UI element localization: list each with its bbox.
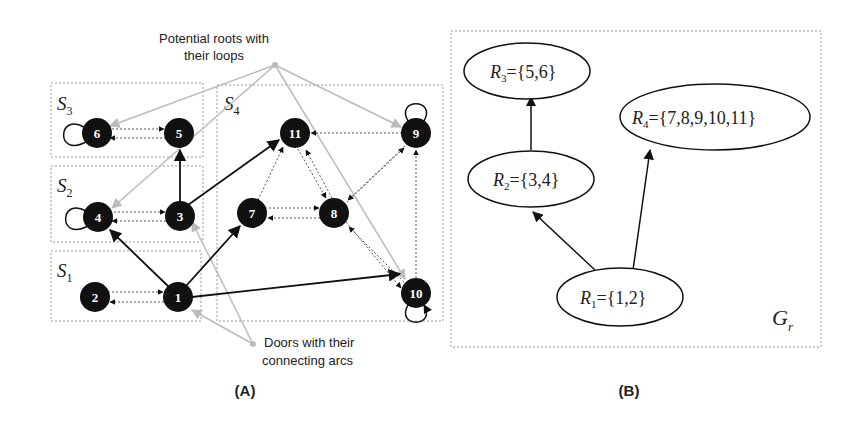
- svg-text:7: 7: [249, 206, 256, 221]
- node-2: 2: [80, 282, 110, 312]
- roots-hub-dot: [272, 62, 278, 68]
- subset-label-s2: S2: [57, 175, 73, 200]
- node-8: 8: [319, 198, 349, 228]
- svg-text:3: 3: [177, 209, 184, 224]
- doors-annotation-line1: Doors with their: [264, 335, 355, 350]
- region-nodes: R3={5,6} R4={7,8,9,10,11} R2={3,4} R1={1…: [464, 43, 810, 326]
- svg-text:R3={5,6}: R3={5,6}: [489, 62, 556, 84]
- svg-text:R4={7,8,9,10,11}: R4={7,8,9,10,11}: [631, 108, 756, 130]
- node-5: 5: [164, 118, 194, 148]
- svg-text:11: 11: [289, 126, 301, 141]
- node-11: 11: [280, 118, 310, 148]
- region-r1: R1={1,2}: [557, 268, 683, 326]
- node-7: 7: [237, 198, 267, 228]
- subset-label-s1: S1: [57, 260, 73, 285]
- svg-text:6: 6: [94, 126, 101, 141]
- figure-canvas: S3 S2 S1 S4: [0, 0, 859, 425]
- svg-text:9: 9: [413, 126, 420, 141]
- node-1: 1: [163, 282, 193, 312]
- doors-annotation-line2: connecting arcs: [262, 353, 354, 368]
- region-r4: R4={7,8,9,10,11}: [620, 84, 810, 150]
- roots-annotation-line2: their loops: [184, 48, 244, 63]
- root-annotation-arrows: [110, 65, 405, 279]
- graph-nodes: 6 5 4 3 2 1 11 9 7 8 10: [80, 118, 431, 312]
- svg-text:R2={3,4}: R2={3,4}: [492, 170, 559, 192]
- svg-text:8: 8: [331, 206, 338, 221]
- node-4: 4: [83, 202, 113, 232]
- svg-text:4: 4: [95, 210, 102, 225]
- graph-name-label: Gr: [772, 305, 794, 334]
- svg-text:2: 2: [92, 290, 99, 305]
- subset-label-s4: S4: [224, 93, 240, 118]
- doors-hub-dot: [250, 341, 256, 347]
- svg-text:R1={1,2}: R1={1,2}: [579, 288, 646, 310]
- region-r2: R2={3,4}: [468, 151, 594, 207]
- svg-text:5: 5: [176, 126, 183, 141]
- panel-a-label: (A): [235, 382, 256, 399]
- node-9: 9: [401, 118, 431, 148]
- node-6: 6: [82, 118, 112, 148]
- region-r3: R3={5,6}: [464, 43, 590, 99]
- panel-b-label: (B): [619, 382, 640, 399]
- svg-text:10: 10: [410, 286, 423, 301]
- roots-annotation-line1: Potential roots with: [159, 31, 269, 46]
- svg-text:1: 1: [175, 290, 182, 305]
- node-3: 3: [165, 201, 195, 231]
- subset-label-s3: S3: [57, 93, 73, 118]
- node-10: 10: [401, 278, 431, 308]
